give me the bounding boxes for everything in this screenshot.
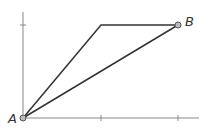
point-a-marker: [20, 115, 26, 121]
point-a-label: A: [7, 111, 17, 126]
diagram-canvas: A B: [0, 0, 211, 137]
straight-path: [23, 25, 178, 118]
point-b-marker: [175, 22, 181, 28]
point-b-label: B: [185, 14, 194, 29]
